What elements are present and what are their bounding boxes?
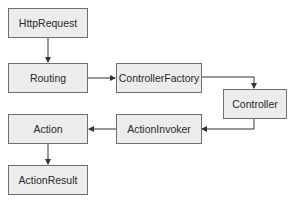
edge-controllerfactory-controller bbox=[202, 77, 254, 88]
node-routing: Routing bbox=[8, 63, 88, 93]
node-controller: Controller bbox=[223, 89, 287, 119]
node-actioninvoker: ActionInvoker bbox=[116, 114, 202, 144]
node-controllerfactory: ControllerFactory bbox=[116, 63, 202, 93]
node-actionresult: ActionResult bbox=[8, 165, 88, 195]
node-action: Action bbox=[8, 114, 88, 144]
edge-controller-actioninvoker bbox=[202, 119, 254, 129]
node-httprequest: HttpRequest bbox=[8, 8, 88, 38]
